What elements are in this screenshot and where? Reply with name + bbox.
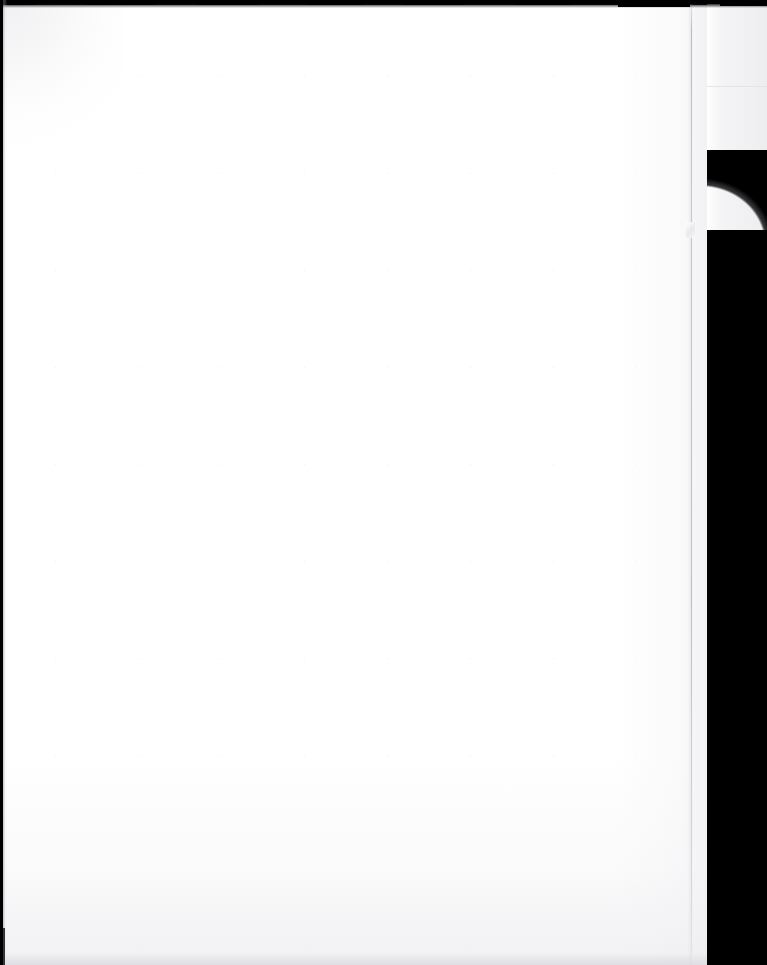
scanned-document-viewport: Blank page <box>0 0 767 965</box>
page-shading-topleft <box>3 5 123 155</box>
right-scan-border <box>707 230 767 965</box>
scan-noise-texture <box>3 5 707 965</box>
top-scan-border-wave <box>0 0 767 9</box>
underlying-sheet-flap <box>707 0 767 232</box>
left-scan-border-bottom <box>0 928 5 965</box>
page-shading-bottom <box>3 755 707 965</box>
page-shading-right <box>617 5 707 965</box>
left-scan-border <box>0 0 3 965</box>
blank-paper-sheet <box>3 5 707 965</box>
